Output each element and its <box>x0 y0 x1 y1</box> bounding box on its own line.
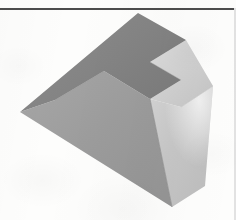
page-right-rule <box>234 8 236 220</box>
page-top-rule <box>0 8 236 10</box>
scanned-figure-page <box>0 0 236 220</box>
isometric-block-figure <box>0 0 236 220</box>
